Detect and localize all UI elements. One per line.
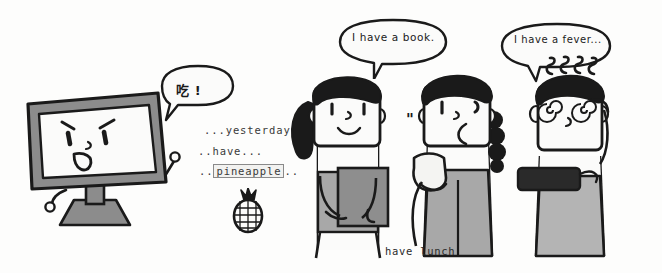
quote-mark: " [406,111,413,129]
annotation-pineapple-boxed: pineapple [213,164,284,178]
monitor-right-eye [104,132,106,143]
monitor-left-hand [45,202,54,211]
monitor-screen [39,105,156,178]
monitor-left-eye [68,133,70,144]
person-3-thermometer [518,168,580,190]
heat-squiggles [542,54,604,86]
person-2-girl-with-braid [396,60,516,260]
comic-scene: 吃 ! ...yesterday... ..have... ..pineappl… [0,0,662,273]
speech-bubble-person-3-text: I have a fever... [514,34,602,45]
caption-have-lunch: have lunch [385,245,455,257]
heat-squiggle-2 [561,57,569,73]
pineapple-crown [241,188,256,200]
person-1-girl-with-book [286,60,406,260]
pineapple-icon [226,188,270,236]
heat-squiggle-1 [547,58,555,74]
person-2-arm [413,182,422,246]
person-2-sandwich [414,154,447,191]
heat-squiggle-4 [589,58,597,74]
annotation-pineapple-line: ..pineapple.. [199,165,299,177]
annotation-prefix: .. [199,165,213,177]
monitor-right-hand [170,152,179,161]
heat-squiggle-3 [575,57,583,73]
annotation-have: ..have... [198,145,263,157]
speech-bubble-monitor-text: 吃 ! [176,80,201,99]
person-3-sick-with-thermometer [500,64,630,260]
speech-bubble-person-1-text: I have a book. [352,31,435,43]
monitor-left-arm [52,190,66,205]
